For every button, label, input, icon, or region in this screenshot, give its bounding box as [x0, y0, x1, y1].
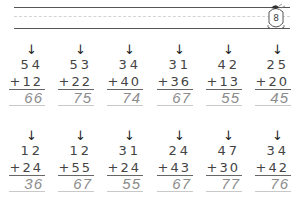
first-addend: 34: [118, 58, 141, 71]
answer[interactable]: 66: [24, 90, 43, 105]
first-addend: 31: [168, 58, 191, 71]
second-addend: +36: [157, 75, 191, 88]
first-addend: 25: [266, 58, 289, 71]
answer-line: [58, 105, 94, 106]
down-arrow-icon: ↓: [174, 129, 185, 142]
first-addend: 42: [217, 58, 240, 71]
answer[interactable]: 55: [221, 90, 240, 105]
answer[interactable]: 67: [73, 176, 92, 191]
answer[interactable]: 77: [221, 176, 240, 191]
second-addend: +20: [255, 75, 289, 88]
first-addend: 34: [266, 144, 289, 157]
answer[interactable]: 67: [172, 176, 191, 191]
second-addend: +13: [206, 75, 240, 88]
answer[interactable]: 74: [122, 90, 141, 105]
second-addend: +22: [58, 75, 92, 88]
down-arrow-icon: ↓: [75, 43, 86, 56]
answer[interactable]: 36: [24, 176, 43, 191]
answer[interactable]: 45: [270, 90, 289, 105]
answer[interactable]: 76: [270, 176, 289, 191]
second-addend: +24: [107, 161, 141, 174]
answer-line: [9, 191, 45, 192]
answer-line: [206, 105, 242, 106]
answer[interactable]: 75: [73, 90, 92, 105]
answer-line: [107, 105, 143, 106]
first-addend: 54: [20, 58, 43, 71]
second-addend: +12: [9, 75, 43, 88]
second-addend: +30: [206, 161, 240, 174]
down-arrow-icon: ↓: [124, 129, 135, 142]
down-arrow-icon: ↓: [272, 129, 283, 142]
second-addend: +42: [255, 161, 289, 174]
first-addend: 47: [217, 144, 240, 157]
answer-line: [107, 191, 143, 192]
down-arrow-icon: ↓: [272, 43, 283, 56]
page-number-badge: 8: [264, 3, 288, 33]
first-addend: 24: [168, 144, 191, 157]
down-arrow-icon: ↓: [174, 43, 185, 56]
first-addend: 12: [20, 144, 43, 157]
name-writing-line-bottom: [14, 28, 290, 29]
name-writing-line-top: [14, 7, 290, 8]
answer-line: [157, 105, 193, 106]
down-arrow-icon: ↓: [26, 129, 37, 142]
second-addend: +40: [107, 75, 141, 88]
answer-line: [255, 105, 291, 106]
answer-line: [206, 191, 242, 192]
down-arrow-icon: ↓: [124, 43, 135, 56]
answer-line: [9, 105, 45, 106]
answer-line: [58, 191, 94, 192]
answer[interactable]: 55: [122, 176, 141, 191]
down-arrow-icon: ↓: [26, 43, 37, 56]
down-arrow-icon: ↓: [223, 129, 234, 142]
second-addend: +24: [9, 161, 43, 174]
first-addend: 53: [69, 58, 92, 71]
second-addend: +43: [157, 161, 191, 174]
down-arrow-icon: ↓: [75, 129, 86, 142]
answer-line: [255, 191, 291, 192]
name-writing-line-mid: [14, 16, 290, 17]
first-addend: 31: [118, 144, 141, 157]
first-addend: 12: [69, 144, 92, 157]
page-number: 8: [264, 13, 288, 23]
answer[interactable]: 67: [172, 90, 191, 105]
second-addend: +55: [58, 161, 92, 174]
answer-line: [157, 191, 193, 192]
down-arrow-icon: ↓: [223, 43, 234, 56]
